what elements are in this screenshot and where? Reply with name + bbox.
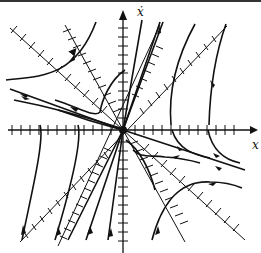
phase-portrait bbox=[0, 0, 261, 253]
trajectory-lr-4 bbox=[152, 182, 242, 240]
trajectory-ul-2 bbox=[55, 70, 125, 114]
trajectory-lr-1 bbox=[172, 130, 210, 158]
x-axis-label: x bbox=[252, 138, 259, 152]
origin-point bbox=[119, 126, 127, 134]
trajectory-lr-2 bbox=[208, 130, 240, 163]
trajectory-ul-1 bbox=[6, 22, 96, 80]
y-axis-label: ẋ bbox=[137, 5, 144, 19]
trajectory-left-2 bbox=[55, 125, 79, 240]
trajectory-lr-5 bbox=[126, 140, 155, 190]
trajectory-right-2 bbox=[209, 24, 226, 125]
trajectory-right-1 bbox=[170, 24, 195, 125]
